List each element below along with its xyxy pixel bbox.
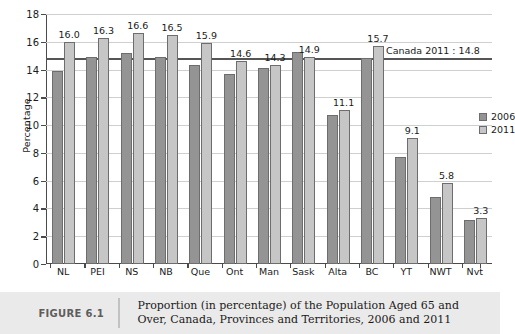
legend-swatch-2011-icon <box>479 126 487 134</box>
legend-label-2006: 2006 <box>491 111 515 124</box>
bar-2011 <box>407 138 418 264</box>
bar-group <box>325 14 351 264</box>
x-tick-label: NWT <box>429 266 451 277</box>
y-tick-label: 2 <box>33 231 39 242</box>
legend-swatch-2006-icon <box>479 113 487 121</box>
y-tick-mark <box>41 42 46 43</box>
bar-2006 <box>430 197 441 264</box>
bar-group <box>359 14 385 264</box>
bar-value-label: 3.3 <box>473 205 488 216</box>
legend-item-2011: 2011 <box>479 124 515 137</box>
bar-2011 <box>201 43 212 264</box>
x-tick-mark <box>222 264 223 268</box>
x-tick-label: NS <box>125 266 138 277</box>
bar-2006 <box>121 53 132 264</box>
bar-value-label: 14.6 <box>230 48 251 59</box>
y-tick-mark <box>41 14 46 15</box>
y-tick-mark <box>41 125 46 126</box>
chart-area: Percentage 024681012141618 Canada 2011 :… <box>0 0 500 288</box>
bar-value-label: 14.9 <box>299 44 320 55</box>
y-tick-label: 16 <box>26 36 39 47</box>
bar-2011 <box>133 33 144 264</box>
caption-line-1: Proportion (in percentage) of the Popula… <box>138 299 459 314</box>
legend-label-2011: 2011 <box>491 124 515 137</box>
bar-value-label: 16.6 <box>127 20 148 31</box>
y-tick-mark <box>41 70 46 71</box>
y-tick-mark <box>41 97 46 98</box>
x-tick-mark <box>462 264 463 268</box>
bar-2006 <box>86 57 97 264</box>
x-tick-mark <box>325 264 326 268</box>
x-tick-mark <box>480 264 481 268</box>
bar-2006 <box>395 157 406 264</box>
x-tick-label: NL <box>57 266 69 277</box>
x-tick-mark <box>187 264 188 268</box>
x-tick-label: Que <box>191 266 210 277</box>
bar-2006 <box>464 220 475 264</box>
bar-value-label: 15.7 <box>367 33 388 44</box>
x-tick-label: BC <box>365 266 378 277</box>
y-tick-mark <box>41 208 46 209</box>
caption-line-2: Over, Canada, Provinces and Territories,… <box>138 313 459 328</box>
bar-2011 <box>304 57 315 264</box>
bar-2011 <box>442 183 453 264</box>
x-tick-mark <box>359 264 360 268</box>
figure-caption-bar: FIGURE 6.1 Proportion (in percentage) of… <box>0 292 500 334</box>
bar-value-label: 14.3 <box>264 52 285 63</box>
chart-legend: 2006 2011 <box>479 111 515 136</box>
bar-group <box>462 14 488 264</box>
bar-2011 <box>236 61 247 264</box>
x-tick-mark <box>50 264 51 268</box>
x-tick-mark <box>153 264 154 268</box>
legend-item-2006: 2006 <box>479 111 515 124</box>
bar-value-label: 5.8 <box>439 170 454 181</box>
y-tick-label: 14 <box>26 64 39 75</box>
x-tick-mark <box>256 264 257 268</box>
x-tick-label: Alta <box>328 266 347 277</box>
bar-2006 <box>155 57 166 264</box>
bar-2011 <box>476 218 487 264</box>
y-tick-label: 10 <box>26 120 39 131</box>
plot-area: 024681012141618 Canada 2011 : 14.8 16.01… <box>46 14 492 264</box>
x-tick-label: Sask <box>292 266 314 277</box>
x-tick-label: Ont <box>226 266 243 277</box>
bar-2011 <box>98 38 109 264</box>
bar-2006 <box>258 68 269 264</box>
bar-2006 <box>52 71 63 264</box>
x-tick-label: NB <box>159 266 173 277</box>
bar-2011 <box>339 110 350 264</box>
bar-2006 <box>327 115 338 264</box>
bar-2006 <box>224 74 235 264</box>
y-tick-mark <box>41 236 46 237</box>
x-tick-mark <box>84 264 85 268</box>
bar-2011 <box>64 42 75 264</box>
y-tick-label: 12 <box>26 92 39 103</box>
bar-group <box>393 14 419 264</box>
y-tick-label: 4 <box>33 203 39 214</box>
bar-2006 <box>361 58 372 264</box>
y-tick-label: 18 <box>26 9 39 20</box>
x-tick-label: Man <box>259 266 279 277</box>
bar-value-label: 16.0 <box>59 29 80 40</box>
bar-2006 <box>292 52 303 265</box>
y-tick-label: 8 <box>33 147 39 158</box>
bar-value-label: 11.1 <box>333 97 354 108</box>
figure-caption-text: Proportion (in percentage) of the Popula… <box>120 299 459 328</box>
bar-value-label: 9.1 <box>405 125 420 136</box>
bar-group <box>119 14 145 264</box>
bar-group <box>84 14 110 264</box>
y-tick-label: 0 <box>33 259 39 270</box>
bar-group <box>187 14 213 264</box>
y-axis-line <box>46 14 47 264</box>
bar-group <box>153 14 179 264</box>
bar-2006 <box>189 65 200 264</box>
y-tick-mark <box>41 181 46 182</box>
x-tick-mark <box>119 264 120 268</box>
bar-group <box>428 14 454 264</box>
bar-value-label: 16.5 <box>161 22 182 33</box>
x-tick-label: YT <box>400 266 412 277</box>
bar-2011 <box>167 35 178 264</box>
bar-value-label: 15.9 <box>196 30 217 41</box>
x-tick-mark <box>393 264 394 268</box>
